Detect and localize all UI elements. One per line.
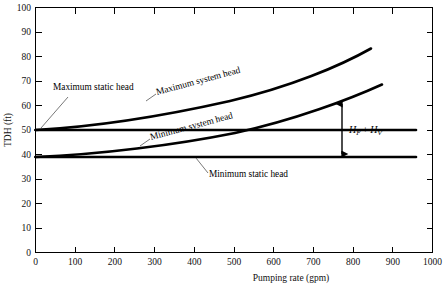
- y-tick-labels: 0 10 20 30 40 50 60 70 80 90 100: [17, 3, 32, 258]
- x-tick-label: 0: [33, 257, 38, 267]
- leader-minimum-system-head: [140, 139, 150, 146]
- y-tick-label: 10: [22, 223, 32, 233]
- x-tick-label: 400: [187, 257, 202, 267]
- head-sub-f: F: [355, 129, 361, 137]
- svg-text:HF+HV: HF+HV: [348, 124, 382, 137]
- y-tick-label: 30: [22, 174, 32, 184]
- x-tick-label: 700: [306, 257, 321, 267]
- annotation-maximum-static-head: Maximum static head: [53, 82, 134, 92]
- x-tick-label: 1000: [423, 257, 442, 267]
- chart-container: 0 10 20 30 40 50 60 70 80 90 100 0 100 2…: [0, 0, 447, 307]
- x-tick-label: 300: [147, 257, 162, 267]
- annotation-maximum-system-head: Maximum system head: [155, 65, 242, 97]
- y-tick-label: 80: [22, 52, 32, 62]
- x-tick-labels: 0 100 200 300 400 500 600 700 800 900 10…: [33, 257, 442, 267]
- head-sub-v: V: [377, 129, 382, 137]
- x-tick-label: 800: [346, 257, 361, 267]
- y-tick-label: 20: [22, 199, 32, 209]
- head-plus: +: [363, 124, 369, 135]
- y-tick-label: 100: [17, 3, 32, 13]
- y-tick-label: 90: [22, 27, 32, 37]
- x-axis-ticks: [36, 247, 433, 253]
- x-tick-label: 100: [68, 257, 83, 267]
- x-tick-label: 900: [386, 257, 401, 267]
- x-tick-label: 200: [108, 257, 123, 267]
- y-axis-title: TDH (ft): [3, 113, 14, 147]
- leader-minimum-static-head: [196, 158, 208, 173]
- annotation-minimum-static-head: Minimum static head: [209, 169, 288, 179]
- y-tick-label: 50: [22, 125, 32, 135]
- x-tick-label: 600: [267, 257, 282, 267]
- x-tick-label: 500: [227, 257, 242, 267]
- x-axis-ticks-top: [75, 8, 393, 14]
- leader-maximum-static-head: [41, 97, 68, 128]
- y-axis-ticks-right: [427, 32, 433, 253]
- system-head-curve-chart: 0 10 20 30 40 50 60 70 80 90 100 0 100 2…: [0, 0, 447, 307]
- y-tick-label: 70: [22, 76, 32, 86]
- y-tick-label: 60: [22, 101, 32, 111]
- annotation-friction-velocity-head: HF+HV: [348, 124, 382, 137]
- leader-maximum-system-head: [146, 94, 156, 101]
- x-axis-title: Pumping rate (gpm): [253, 273, 330, 284]
- y-tick-label: 0: [26, 248, 31, 258]
- y-tick-label: 40: [22, 150, 32, 160]
